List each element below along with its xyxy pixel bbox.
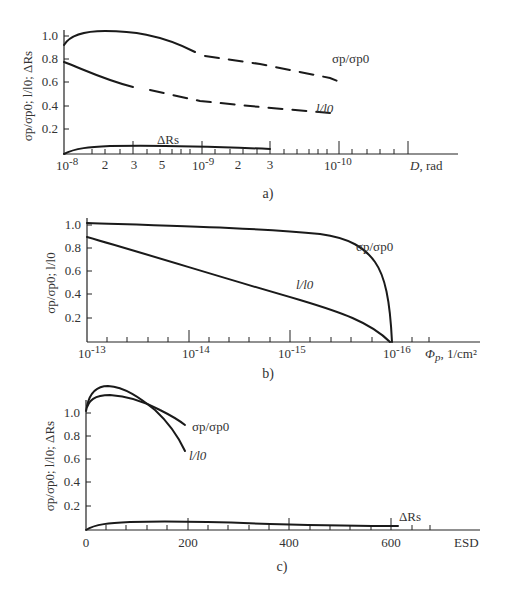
caption-a: a) xyxy=(263,186,274,202)
xtick-label: 400 xyxy=(279,535,299,550)
panel-b: 1.0 0.8 0.6 0.4 0.2 10-13 10-14 10-15 10… xyxy=(43,217,480,382)
xtick-label: 3 xyxy=(131,157,138,172)
curve-sigma-a-solid xyxy=(64,31,195,52)
xtick-label: 10-13 xyxy=(78,343,106,361)
y-axis-label-c: σp/σp0; l/l0; ΔRs xyxy=(42,421,57,511)
ytick-label: 0.2 xyxy=(42,121,58,136)
xtick-label: 2 xyxy=(102,157,109,172)
x-axis-label-c: ESD xyxy=(454,535,479,550)
xtick-label: 600 xyxy=(381,535,401,550)
series-label-l-c: l/l0 xyxy=(189,448,207,463)
series-label-l-a: l/l0 xyxy=(316,101,334,116)
xtick-label: 10-9 xyxy=(192,155,215,173)
series-label-l-b: l/l0 xyxy=(296,277,314,292)
x-ticks-b xyxy=(107,330,429,342)
series-label-sigma-b: σp/σp0 xyxy=(356,239,393,254)
series-label-sigma-c: σp/σp0 xyxy=(192,419,229,434)
series-label-dr-a: ΔRs xyxy=(157,132,179,147)
ytick-label: 0.8 xyxy=(65,240,81,255)
xtick-label: 10-16 xyxy=(383,343,411,361)
ytick-label: 1.0 xyxy=(64,405,80,420)
ytick-label: 0.6 xyxy=(64,451,81,466)
xtick-label: 10-10 xyxy=(324,155,352,173)
panel-a: 1.0 0.8 0.6 0.4 0.2 xyxy=(20,28,458,202)
curve-l-a-dashed xyxy=(150,90,330,113)
ytick-label: 0.4 xyxy=(64,474,81,489)
ytick-label: 0.8 xyxy=(42,51,58,66)
series-label-dr-c: ΔRs xyxy=(399,509,421,524)
caption-c: c) xyxy=(277,559,288,575)
ytick-label: 0.2 xyxy=(65,310,81,325)
xtick-label: 3 xyxy=(267,157,274,172)
series-label-sigma-a: σp/σp0 xyxy=(332,51,369,66)
y-axis-label-b: σp/σp0; l/l0 xyxy=(43,252,58,313)
xtick-label: 10-15 xyxy=(278,343,306,361)
xtick-label: 0 xyxy=(83,535,90,550)
xtick-label: 5 xyxy=(159,157,166,172)
y-ticks-c xyxy=(86,413,91,506)
y-axis-label-a: σp/σp0; l/l0; ΔRs xyxy=(20,51,35,141)
y-ticks-a xyxy=(64,36,69,129)
panel-c: 1.0 0.8 0.6 0.4 0.2 0 200 400 600 E xyxy=(42,386,480,575)
figure: 1.0 0.8 0.6 0.4 0.2 xyxy=(0,0,506,591)
curve-sigma-c xyxy=(86,395,185,425)
caption-b: b) xyxy=(262,366,274,382)
xtick-label: 10-8 xyxy=(56,155,79,173)
xtick-label: 2 xyxy=(235,157,242,172)
curve-sigma-a-dashed xyxy=(205,56,340,82)
x-axis-label-a: D, rad xyxy=(409,158,443,173)
ytick-label: 0.4 xyxy=(42,98,59,113)
ytick-label: 0.8 xyxy=(64,428,80,443)
xtick-label: 10-14 xyxy=(182,343,210,361)
curve-l-b xyxy=(87,237,390,342)
ytick-label: 0.4 xyxy=(65,286,82,301)
ytick-label: 1.0 xyxy=(65,217,81,232)
curve-dr-c xyxy=(86,522,398,530)
ytick-label: 0.2 xyxy=(64,498,80,513)
curve-l-a-solid xyxy=(64,62,133,87)
x-axis-label-b: Φp, 1/cm² xyxy=(425,346,477,363)
ytick-label: 0.6 xyxy=(65,263,82,278)
ytick-label: 0.6 xyxy=(42,74,59,89)
ytick-label: 1.0 xyxy=(42,28,58,43)
xtick-label: 200 xyxy=(178,535,198,550)
